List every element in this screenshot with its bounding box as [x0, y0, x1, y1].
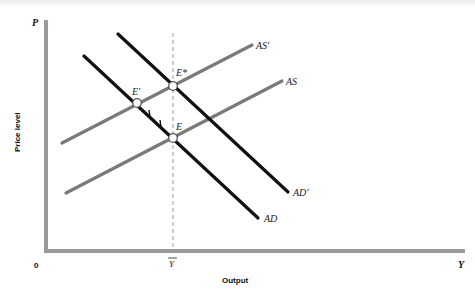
point-e-prime: [133, 99, 142, 108]
ybar-label: Y: [169, 259, 175, 269]
label-as: AS: [285, 76, 297, 87]
y-axis-title: Price level: [13, 112, 22, 152]
x-axis-symbol: Y: [458, 259, 465, 270]
origin-label: 0: [34, 261, 39, 270]
point-e: [169, 134, 178, 143]
label-e-star: E*: [175, 67, 187, 78]
y-axis-symbol: P: [32, 17, 39, 28]
label-ad-prime: AD': [292, 187, 309, 198]
as-prime-curve: [62, 45, 252, 143]
label-as-prime: AS': [255, 40, 270, 51]
label-ad: AD: [263, 213, 278, 224]
x-axis-title: Output: [222, 276, 249, 285]
as-ad-chart: E* E' E AS' AS AD' AD P Y 0 Y Output Pri…: [0, 0, 475, 297]
label-e-prime: E': [131, 86, 141, 97]
point-e-star: [169, 82, 178, 91]
label-e: E: [175, 121, 182, 132]
